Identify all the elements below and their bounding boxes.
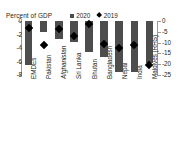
right-tick-mark: [158, 32, 161, 33]
category-label-afghanistan: Afghanistan: [61, 46, 67, 79]
left-tick-mark: [18, 75, 21, 76]
category-label-pakistan: Pakistan: [46, 55, 52, 79]
right-tick-label: -20: [162, 61, 180, 67]
right-tick-mark: [158, 64, 161, 65]
right-tick-mark: [158, 53, 161, 54]
right-tick-mark: [158, 75, 161, 76]
right-tick-mark: [158, 43, 161, 44]
right-tick-label: -5: [162, 29, 180, 35]
legend-label-2019: 2019: [104, 12, 118, 19]
legend-diamond-icon: [96, 12, 102, 18]
chart-container: Percent of GDP 2020 2019 0-2-4-6-8 0-5-1…: [0, 0, 182, 148]
chart-legend: 2020 2019: [70, 12, 118, 19]
legend-label-2020: 2020: [76, 12, 90, 19]
right-tick-label: -25: [162, 72, 180, 78]
right-tick-label: -15: [162, 50, 180, 56]
right-tick-mark: [158, 21, 161, 22]
bar-pakistan: [40, 21, 48, 32]
legend-item-2019: 2019: [97, 12, 118, 19]
legend-square-icon: [70, 14, 74, 18]
category-label-sri-lanka: Sri Lanka: [76, 52, 82, 79]
bar-maldives-rhs: [146, 21, 154, 63]
right-tick-label: 0: [162, 18, 180, 24]
right-tick-label: -10: [162, 40, 180, 46]
legend-item-2020: 2020: [70, 12, 90, 19]
category-label-bhutan: Bhutan: [92, 59, 98, 79]
